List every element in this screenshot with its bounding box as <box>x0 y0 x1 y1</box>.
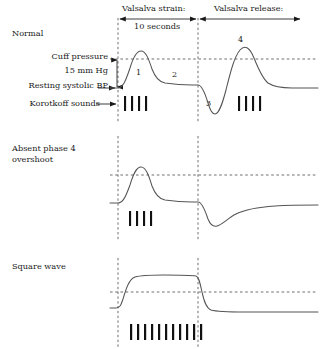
waveform-square <box>110 275 318 312</box>
waveform-absent-phase-4 <box>110 167 318 226</box>
korotkoff-group-normal-2 <box>238 96 261 111</box>
korotkoff-group-square-1 <box>130 324 202 340</box>
korotkoff-group-normal-1 <box>124 96 147 111</box>
waveform-normal <box>110 47 318 114</box>
diagram-canvas <box>0 0 321 349</box>
korotkoff-group-absent-1 <box>129 211 152 226</box>
valsalva-figure: Valsalva strain: 10 seconds Valsalva rel… <box>0 0 321 349</box>
